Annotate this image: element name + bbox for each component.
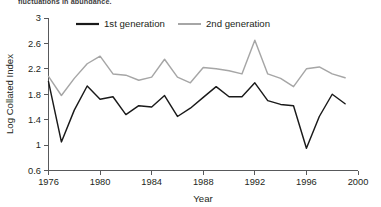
figure-caption-fragment: fluctuations in abundance.: [18, 0, 268, 7]
line-chart: 1st generation 2nd generation 0.611.41.8…: [0, 0, 381, 207]
x-axis-tick-label: 1992: [244, 177, 265, 187]
y-axis-tick-label: 2.2: [28, 64, 41, 74]
x-axis-tick-label: 1984: [141, 177, 162, 187]
y-axis-ticks: [44, 18, 49, 171]
figure-container: fluctuations in abundance. 1st generatio…: [0, 0, 381, 207]
legend-label-1st-generation: 1st generation: [104, 18, 165, 29]
x-axis-tick-label: 1976: [38, 177, 59, 187]
y-axis-tick-labels: 0.611.41.82.22.63: [28, 13, 41, 176]
x-axis-tick-label: 1980: [90, 177, 111, 187]
y-axis-tick-label: 3: [36, 13, 41, 23]
legend-label-2nd-generation: 2nd generation: [206, 18, 270, 29]
chart-series: [49, 40, 346, 148]
y-axis-tick-label: 1.8: [28, 90, 41, 100]
x-axis-tick-label: 1988: [193, 177, 214, 187]
y-axis-tick-label: 1: [36, 140, 41, 150]
x-axis-ticks: [49, 171, 359, 176]
y-axis-tick-label: 2.6: [28, 39, 41, 49]
x-axis-tick-label: 1996: [296, 177, 317, 187]
series-line-1st-generation: [49, 82, 346, 149]
chart-axes: [44, 18, 358, 175]
chart-legend: 1st generation 2nd generation: [76, 18, 270, 29]
x-axis-tick-label: 2000: [348, 177, 369, 187]
y-axis-tick-label: 0.6: [28, 166, 41, 176]
x-axis-tick-labels: 1976198019841988199219962000: [38, 177, 368, 187]
series-line-2nd-generation: [49, 40, 346, 95]
y-axis-tick-label: 1.4: [28, 115, 41, 125]
y-axis-title: Log Collated Index: [4, 54, 15, 134]
x-axis-title: Year: [193, 193, 213, 204]
